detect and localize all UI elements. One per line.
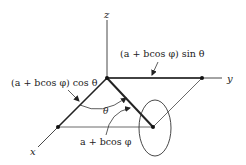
x-component-pointer <box>68 90 79 101</box>
origin-point <box>105 76 109 80</box>
radius-label: a + bcos φ <box>80 136 132 147</box>
diagram-canvas: z y x θ (a + bcos φ) sin θ (a + bcos φ) … <box>0 0 246 165</box>
construction-line-right <box>153 78 202 127</box>
radius-end-point <box>151 125 155 129</box>
y-axis-label: y <box>226 73 233 84</box>
y-component-pointer <box>152 62 158 75</box>
theta-label: θ <box>103 106 109 116</box>
x-point <box>56 125 60 129</box>
tube-cross-section <box>139 100 171 156</box>
y-component-label: (a + bcos φ) sin θ <box>120 48 205 59</box>
radius-line <box>107 78 153 127</box>
y-point <box>200 76 204 80</box>
z-axis-label: z <box>103 9 110 20</box>
x-axis-label: x <box>30 146 36 157</box>
radius-pointer <box>106 108 130 135</box>
x-component-label: (a + bcos φ) cos θ <box>11 77 98 88</box>
